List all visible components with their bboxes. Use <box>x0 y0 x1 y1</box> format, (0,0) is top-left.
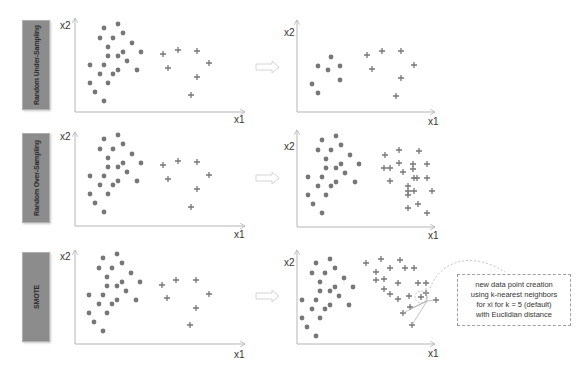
smote-callout: new data point creation using k-nearest … <box>457 274 571 326</box>
callout-line: with Euclidian distance <box>458 310 570 320</box>
x-axis-label: x1 <box>428 348 439 359</box>
callout-line: for xi for k = 5 (default) <box>458 300 570 310</box>
row-label-smote: SMOTE <box>22 252 50 342</box>
y-axis-label: x2 <box>284 141 295 152</box>
x-axis-label: x1 <box>234 114 245 125</box>
transform-arrow-icon <box>256 290 279 302</box>
transform-arrow-icon <box>256 172 279 184</box>
x-axis-label: x1 <box>234 349 245 360</box>
row-label-oversampling: Random Over-Sampling <box>22 133 50 223</box>
callout-line: using k-nearest neighbors <box>458 290 570 300</box>
y-axis-label: x2 <box>60 131 71 142</box>
callout-line: new data point creation <box>458 280 570 290</box>
y-axis-label: x2 <box>284 257 295 268</box>
x-axis-label: x1 <box>234 229 245 240</box>
y-axis-label: x2 <box>60 251 71 262</box>
row-label-text: Random Over-Sampling <box>33 140 40 216</box>
x-axis-label: x1 <box>428 116 439 127</box>
row-label-text: SMOTE <box>33 285 40 309</box>
panel-undersampling-before <box>75 18 245 112</box>
row-label-undersampling: Random Under-Sampling <box>22 20 50 110</box>
transform-arrow-icon <box>256 61 279 73</box>
y-axis-label: x2 <box>60 20 71 31</box>
panel-smote-before <box>75 250 245 344</box>
panel-oversampling-before <box>75 132 245 226</box>
y-axis-label: x2 <box>284 27 295 38</box>
row-label-text: Random Under-Sampling <box>33 25 40 105</box>
x-axis-label: x1 <box>428 230 439 241</box>
